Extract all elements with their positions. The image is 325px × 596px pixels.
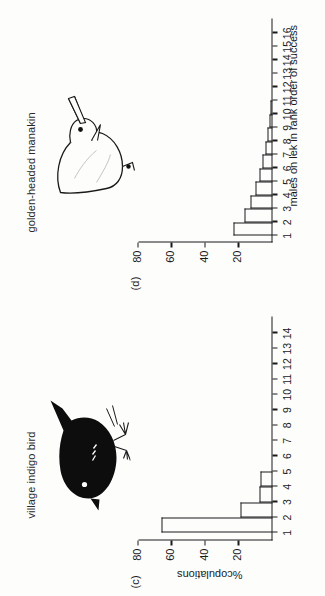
panel-d-bar-2 <box>244 208 272 221</box>
panel-c-species-label: village indigo bird <box>24 431 36 518</box>
panel-c-xtick-1: 1 <box>272 531 277 532</box>
panel-d-xtick-16: 16 <box>272 31 277 32</box>
panel-c-xtick-13: 13 <box>272 347 277 348</box>
panel-d-xtick-4: 4 <box>272 193 277 194</box>
panel-d-xtick-label-8: 8 <box>280 138 292 144</box>
panel-d-plot: 20 40 60 80 males on lek in rank order o… <box>138 18 272 242</box>
golden-headed-manakin-icon <box>44 92 140 202</box>
panel-d-xtick-label-1: 1 <box>280 232 292 238</box>
panel-d-bar-8 <box>267 127 272 140</box>
village-indigo-bird-icon <box>44 392 130 512</box>
panel-d-xtick-6: 6 <box>272 166 277 167</box>
panel-c-xtick-label-3: 3 <box>280 499 292 505</box>
panel-d-xtick-11: 11 <box>272 99 277 100</box>
panel-d-xtick-label-13: 13 <box>280 67 292 79</box>
panel-c-xtick-label-2: 2 <box>280 514 292 520</box>
panel-c-xtick-label-8: 8 <box>280 422 292 428</box>
panel-d-xtick-label-12: 12 <box>280 81 292 93</box>
panel-d-xtick-14: 14 <box>272 58 277 59</box>
panel-c-xtick-label-7: 7 <box>280 437 292 443</box>
panel-c: (c) village indigo bird 20 40 <box>0 298 325 596</box>
panel-c-xtick-2: 2 <box>272 516 277 517</box>
panel-c-ytick-80: 80 <box>137 540 138 545</box>
panel-c-xtick-label-13: 13 <box>280 342 292 354</box>
panel-c-xtick-label-12: 12 <box>280 358 292 370</box>
panel-c-xtick-3: 3 <box>272 500 277 501</box>
panel-c-ytick-label-20: 20 <box>230 548 242 560</box>
panel-c-letter: (c) <box>128 575 140 588</box>
panel-d-bar-4 <box>255 181 272 194</box>
panel-c-xtick-4: 4 <box>272 485 277 486</box>
panel-d-ytick-20: 20 <box>237 242 238 247</box>
panel-d-xtick-label-11: 11 <box>280 95 292 106</box>
panel-c-xtick-8: 8 <box>272 424 277 425</box>
panel-d-xtick-label-3: 3 <box>280 205 292 211</box>
panel-d-xtick-label-16: 16 <box>280 27 292 39</box>
panel-d-xtick-label-5: 5 <box>280 178 292 184</box>
panel-c-xtick-11: 11 <box>272 378 277 379</box>
panel-c-ytick-20: 20 <box>237 540 238 545</box>
panel-c-xtick-label-11: 11 <box>280 373 292 384</box>
panel-c-xtick-10: 10 <box>272 393 277 394</box>
panel-d-xtick-15: 15 <box>272 45 277 46</box>
panel-c-xtick-12: 12 <box>272 362 277 363</box>
panel-c-ytick-label-40: 40 <box>197 548 209 560</box>
panel-c-bar-4 <box>260 471 272 486</box>
panel-d-xtick-label-14: 14 <box>280 54 292 66</box>
panel-d-letter: (d) <box>128 276 140 290</box>
panel-d-ytick-label-20: 20 <box>230 250 242 262</box>
panel-d-bar-1 <box>233 222 272 235</box>
panel-d: (d) golden-headed manakin 20 <box>0 0 325 298</box>
panel-d-xtick-label-9: 9 <box>280 124 292 130</box>
panel-c-xtick-label-9: 9 <box>280 407 292 413</box>
panel-c-bar-2 <box>240 502 272 517</box>
panel-c-xtick-6: 6 <box>272 454 277 455</box>
panel-d-xtick-13: 13 <box>272 72 277 73</box>
panel-d-bar-10 <box>270 100 272 113</box>
panel-c-ytick-40: 40 <box>204 540 205 545</box>
panel-c-xtick-label-4: 4 <box>280 483 292 489</box>
panel-d-ytick-label-60: 60 <box>163 250 175 262</box>
panel-d-xtick-label-4: 4 <box>280 192 292 198</box>
panel-c-plot: 20 40 60 80 %copulations 123456789101112… <box>138 316 272 540</box>
panel-c-ytick-label-60: 60 <box>163 548 175 560</box>
panel-d-xtick-label-10: 10 <box>280 108 292 120</box>
panel-c-xtick-label-5: 5 <box>280 468 292 474</box>
panel-d-xtick-12: 12 <box>272 85 277 86</box>
panel-d-xtick-10: 10 <box>272 112 277 113</box>
panel-c-bar-1 <box>161 517 272 532</box>
panel-d-species-label: golden-headed manakin <box>24 112 36 232</box>
panel-d-bar-5 <box>259 168 272 181</box>
panel-d-ytick-60: 60 <box>170 242 171 247</box>
panel-d-xtick-label-7: 7 <box>280 151 292 157</box>
panel-c-ytick-label-80: 80 <box>130 548 142 560</box>
panel-d-bar-7 <box>265 141 272 154</box>
panel-c-ytick-60: 60 <box>170 540 171 545</box>
panel-c-bar-3 <box>259 486 272 501</box>
panel-d-xtick-5: 5 <box>272 180 277 181</box>
panel-c-xtick-7: 7 <box>272 439 277 440</box>
panel-c-xtick-5: 5 <box>272 470 277 471</box>
panel-d-ytick-label-80: 80 <box>130 250 142 262</box>
figure-stage: (c) village indigo bird 20 40 <box>0 0 325 596</box>
panel-c-xtick-14: 14 <box>272 332 277 333</box>
panel-d-xtick-label-15: 15 <box>280 41 292 53</box>
panel-c-xtick-label-1: 1 <box>280 529 292 535</box>
panel-d-xtick-2: 2 <box>272 220 277 221</box>
panel-d-ytick-label-40: 40 <box>197 250 209 262</box>
panel-d-bar-3 <box>250 195 272 208</box>
panel-d-xtick-label-2: 2 <box>280 219 292 225</box>
panel-c-xtick-label-10: 10 <box>280 388 292 400</box>
figure-page: (c) village indigo bird 20 40 <box>0 0 325 596</box>
panel-d-xtick-3: 3 <box>272 207 277 208</box>
panel-d-ytick-40: 40 <box>204 242 205 247</box>
panel-c-y-axis-title: %copulations <box>177 568 242 580</box>
panel-c-xtick-label-14: 14 <box>280 327 292 339</box>
panel-d-xtick-8: 8 <box>272 139 277 140</box>
panel-c-xtick-9: 9 <box>272 408 277 409</box>
panel-d-xtick-1: 1 <box>272 234 277 235</box>
panel-d-bar-6 <box>262 154 272 167</box>
panel-d-xtick-7: 7 <box>272 153 277 154</box>
panel-c-xtick-label-6: 6 <box>280 453 292 459</box>
panel-d-xtick-label-6: 6 <box>280 165 292 171</box>
